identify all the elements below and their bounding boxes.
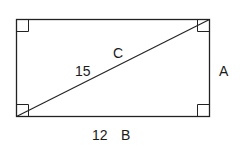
right-angle-marker-bottom-left	[17, 105, 29, 117]
diagonal-line	[17, 20, 210, 117]
diagonal-letter-label: C	[113, 46, 123, 60]
right-angle-marker-bottom-right	[198, 105, 210, 117]
right-side-label: A	[219, 64, 228, 78]
right-angle-marker-top-left	[17, 20, 29, 32]
bottom-letter-label: B	[121, 128, 130, 142]
right-angle-marker-top-right	[198, 20, 210, 32]
bottom-length-label: 12	[92, 128, 108, 142]
diagonal-length-label: 15	[75, 64, 91, 78]
